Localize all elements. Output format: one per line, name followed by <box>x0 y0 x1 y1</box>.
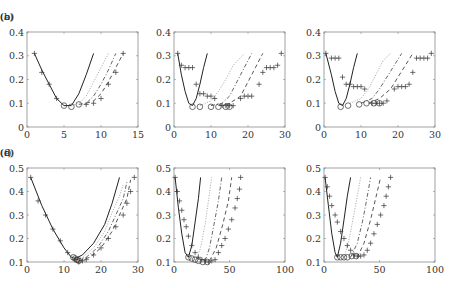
circle-marker <box>356 102 362 108</box>
y-tick-label: 0.4 <box>9 27 24 38</box>
plus-marker <box>410 70 415 75</box>
plus-marker <box>208 94 213 99</box>
plus-marker <box>271 65 276 70</box>
plus-marker <box>358 84 363 89</box>
plus-marker <box>232 205 237 210</box>
x-tick-label: 10 <box>95 129 107 140</box>
plus-marker <box>375 222 380 227</box>
y-tick-label: 0.1 <box>156 98 171 109</box>
plus-marker <box>335 219 340 224</box>
series-dashed <box>357 177 380 257</box>
panel-a: (a)00.10.20.30.4051015 <box>0 11 144 140</box>
x-tick-label: 20 <box>95 264 107 275</box>
plus-marker <box>235 196 240 201</box>
y-tick-label: 0.1 <box>156 257 171 268</box>
circle-marker <box>341 254 347 260</box>
plus-marker <box>249 94 254 99</box>
plus-marker <box>190 65 195 70</box>
series-dashed <box>210 177 232 260</box>
y-tick-label: 0.5 <box>9 163 24 174</box>
series-dotted <box>196 177 212 259</box>
y-tick-label: 0.1 <box>9 257 24 268</box>
x-tick-label: 5 <box>61 129 67 140</box>
x-tick-label: 15 <box>132 129 144 140</box>
plus-marker <box>348 248 353 253</box>
series-dashdot <box>205 177 222 260</box>
plus-marker <box>388 175 393 180</box>
plus-marker <box>229 217 234 222</box>
plus-marker <box>173 175 178 180</box>
plus-marker <box>175 189 180 194</box>
y-tick-label: 0.3 <box>306 50 321 61</box>
plus-marker <box>333 212 338 217</box>
x-tick-label: 0 <box>24 129 30 140</box>
plus-marker <box>237 187 242 192</box>
plus-marker <box>257 82 262 87</box>
x-tick-label: 50 <box>223 264 235 275</box>
plus-marker <box>91 101 96 106</box>
plus-marker <box>91 252 96 257</box>
y-tick-label: 0.2 <box>156 74 171 85</box>
series-dashed <box>368 53 412 103</box>
figure-six-panel: (a)00.10.20.30.4051015 (b)00.10.20.30.40… <box>0 0 453 288</box>
y-tick-label: 0.5 <box>156 163 171 174</box>
y-tick-label: 0.5 <box>306 163 321 174</box>
x-tick-label: 0 <box>321 264 327 275</box>
plus-marker <box>238 175 243 180</box>
x-tick-label: 0 <box>171 264 177 275</box>
plus-marker <box>429 51 434 56</box>
x-tick-label: 0 <box>24 264 30 275</box>
plus-marker <box>329 203 334 208</box>
plus-marker <box>368 241 373 246</box>
x-tick-label: 20 <box>242 129 254 140</box>
circle-marker <box>189 256 195 262</box>
plus-marker <box>275 63 280 68</box>
series-solid <box>326 53 357 105</box>
axes-frame <box>324 32 435 127</box>
plus-marker <box>98 96 103 101</box>
x-tick-label: 100 <box>276 264 294 275</box>
plus-marker <box>194 82 199 87</box>
y-tick-label: 0.2 <box>9 233 24 244</box>
series-dashdot <box>211 53 252 105</box>
series-dotted <box>71 53 108 105</box>
series-dashdot <box>361 53 402 103</box>
series-dotted <box>75 185 123 259</box>
y-tick-label: 0.4 <box>306 186 321 197</box>
plus-marker <box>260 70 265 75</box>
plus-marker <box>201 91 206 96</box>
x-tick-label: 0 <box>321 129 327 140</box>
y-tick-label: 0.1 <box>9 98 24 109</box>
panel-d: (d)0.10.20.30.40.50102030 <box>0 147 144 275</box>
plus-marker <box>189 243 194 248</box>
plus-marker <box>184 224 189 229</box>
plus-marker <box>279 51 284 56</box>
plus-marker <box>378 212 383 217</box>
series-solid <box>178 53 208 105</box>
plus-marker <box>361 252 366 257</box>
y-tick-label: 0.3 <box>9 50 24 61</box>
panel-label: (c) <box>0 11 14 22</box>
plus-marker <box>175 51 180 56</box>
plus-marker <box>392 86 397 91</box>
series-solid <box>31 177 120 258</box>
y-tick-label: 0.2 <box>9 74 24 85</box>
x-tick-label: 0 <box>171 129 177 140</box>
panel-f: (f)0.10.20.30.40.5050100 <box>0 147 444 275</box>
y-tick-label: 0.4 <box>156 27 171 38</box>
plus-marker <box>36 198 41 203</box>
plus-marker <box>231 103 236 108</box>
y-tick-label: 0.4 <box>9 186 24 197</box>
plus-marker <box>113 224 118 229</box>
plus-marker <box>132 175 137 180</box>
y-tick-label: 0.4 <box>156 186 171 197</box>
plus-marker <box>186 234 191 239</box>
plus-marker <box>365 248 370 253</box>
y-tick-label: 0.2 <box>156 233 171 244</box>
y-tick-label: 0.3 <box>306 210 321 221</box>
series-dotted <box>350 53 391 103</box>
plus-marker <box>425 56 430 61</box>
x-tick-label: 30 <box>279 129 291 140</box>
circle-marker <box>216 104 222 110</box>
y-tick-label: 0.3 <box>9 210 24 221</box>
